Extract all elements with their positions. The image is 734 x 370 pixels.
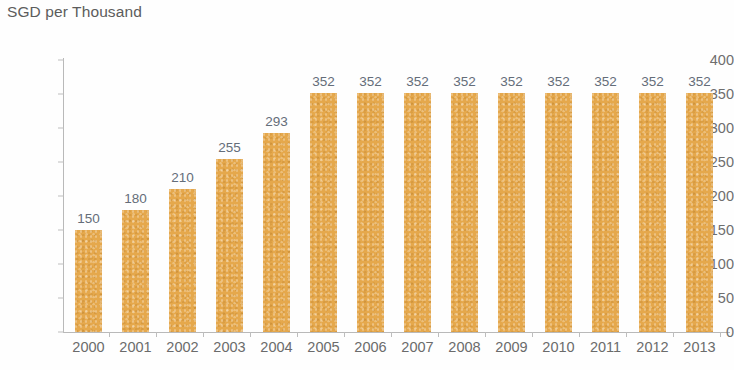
bar xyxy=(404,93,431,332)
y-axis-tick-mark xyxy=(58,332,64,333)
bar-value-label: 352 xyxy=(537,74,581,89)
x-axis-tick-label: 2013 xyxy=(676,339,724,355)
y-axis-tick-mark xyxy=(58,162,64,163)
x-axis-tick-mark xyxy=(673,332,674,337)
x-axis-tick-mark xyxy=(626,332,627,337)
bar xyxy=(451,93,478,332)
y-axis-tick-mark xyxy=(58,94,64,95)
x-axis-tick-label: 2004 xyxy=(253,339,301,355)
x-axis-tick-mark xyxy=(532,332,533,337)
bar-value-label: 352 xyxy=(396,74,440,89)
x-axis-tick-label: 2006 xyxy=(347,339,395,355)
x-axis-tick-mark xyxy=(485,332,486,337)
x-axis-tick-mark xyxy=(156,332,157,337)
bar-value-label: 180 xyxy=(114,191,158,206)
x-axis-tick-mark xyxy=(297,332,298,337)
y-axis-tick-mark xyxy=(58,298,64,299)
bar xyxy=(357,93,384,332)
bar-value-label: 210 xyxy=(161,170,205,185)
bar xyxy=(592,93,619,332)
bar-value-label: 352 xyxy=(349,74,393,89)
x-axis-tick-label: 2011 xyxy=(582,339,630,355)
x-axis-tick-label: 2003 xyxy=(206,339,254,355)
bar xyxy=(310,93,337,332)
x-axis-tick-label: 2012 xyxy=(629,339,677,355)
x-axis-tick-mark xyxy=(391,332,392,337)
bar xyxy=(639,93,666,332)
y-axis-tick-mark xyxy=(58,128,64,129)
bar-value-label: 352 xyxy=(302,74,346,89)
y-axis-tick-label: 400 xyxy=(688,52,734,68)
bar xyxy=(498,93,525,332)
bar-value-label: 255 xyxy=(208,140,252,155)
bar xyxy=(263,133,290,332)
x-axis-tick-mark xyxy=(109,332,110,337)
y-axis-tick-mark xyxy=(58,196,64,197)
bar-value-label: 352 xyxy=(631,74,675,89)
bar xyxy=(169,189,196,332)
plot-area: 400350300250200150100500 150180210255293… xyxy=(0,0,734,370)
x-axis-tick-label: 2002 xyxy=(159,339,207,355)
x-axis-tick-label: 2007 xyxy=(394,339,442,355)
bar-value-label: 150 xyxy=(67,211,111,226)
x-axis-line xyxy=(63,332,730,333)
bar xyxy=(686,93,713,332)
x-axis-tick-mark xyxy=(250,332,251,337)
bar-value-label: 352 xyxy=(443,74,487,89)
bar xyxy=(545,93,572,332)
x-axis-tick-mark xyxy=(438,332,439,337)
bar-value-label: 352 xyxy=(584,74,628,89)
x-axis-tick-label: 2005 xyxy=(300,339,348,355)
bar xyxy=(75,230,102,332)
bar xyxy=(122,210,149,332)
x-axis-tick-label: 2008 xyxy=(441,339,489,355)
bar-value-label: 293 xyxy=(255,114,299,129)
bar xyxy=(216,159,243,332)
x-axis-tick-mark xyxy=(203,332,204,337)
x-axis-tick-label: 2009 xyxy=(488,339,536,355)
y-axis-tick-mark xyxy=(58,264,64,265)
bar-value-label: 352 xyxy=(490,74,534,89)
x-axis-tick-label: 2001 xyxy=(112,339,160,355)
x-axis-tick-label: 2010 xyxy=(535,339,583,355)
bar-value-label: 352 xyxy=(678,74,722,89)
x-axis-tick-mark xyxy=(579,332,580,337)
x-axis-tick-mark xyxy=(720,332,721,337)
y-axis-tick-mark xyxy=(58,60,64,61)
y-axis-tick-mark xyxy=(58,230,64,231)
x-axis-tick-label: 2000 xyxy=(65,339,113,355)
x-axis-tick-mark xyxy=(344,332,345,337)
bar-chart: SGD per Thousand 40035030025020015010050… xyxy=(0,0,734,370)
